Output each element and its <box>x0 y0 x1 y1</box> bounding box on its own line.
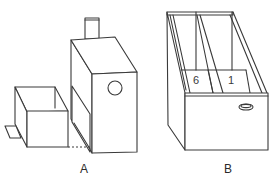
panel-b-drawing <box>167 12 268 150</box>
round-hole <box>108 81 122 95</box>
panel-label-b: B <box>224 162 232 176</box>
compartment-label-1: 1 <box>228 74 234 86</box>
tray-front <box>185 93 268 150</box>
chimney <box>85 18 99 39</box>
tray-left-wall <box>167 12 185 150</box>
compartment-label-6: 6 <box>193 74 199 86</box>
drawer-box <box>15 87 68 147</box>
panel-label-a: A <box>80 162 88 176</box>
diagram-canvas <box>0 0 278 182</box>
panel-a-drawing <box>5 18 137 153</box>
